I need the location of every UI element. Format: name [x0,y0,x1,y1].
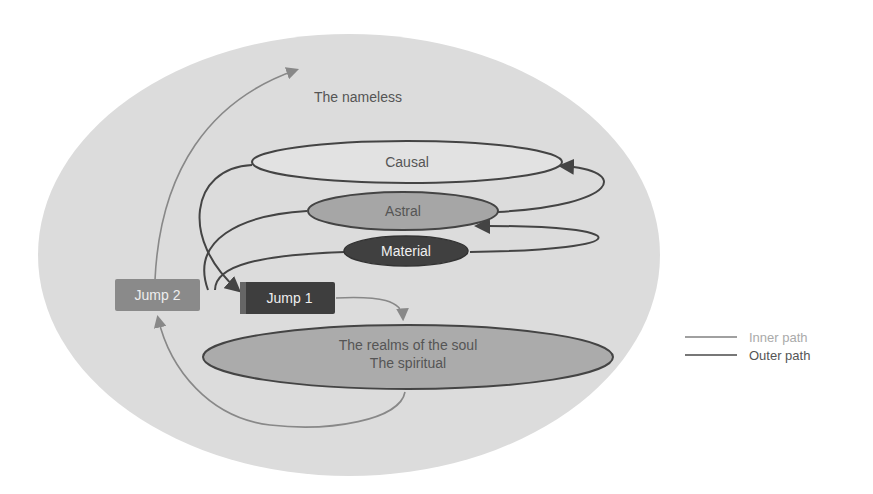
outer-path-swatch [685,354,737,356]
jump1-label: Jump 1 [244,290,335,306]
legend-outer-label: Outer path [749,348,810,363]
soul-label-line1: The realms of the soul [300,337,516,353]
astral-label: Astral [308,203,498,219]
inner-path-swatch [685,336,737,338]
soul-label-line2: The spiritual [300,355,516,371]
legend-item-outer: Outer path [685,346,810,364]
material-label: Material [344,243,468,259]
legend: Inner path Outer path [685,328,810,364]
legend-item-inner: Inner path [685,328,810,346]
nameless-label: The nameless [314,89,402,105]
causal-label: Causal [252,154,562,170]
legend-inner-label: Inner path [749,330,808,345]
jump2-label: Jump 2 [115,287,200,303]
